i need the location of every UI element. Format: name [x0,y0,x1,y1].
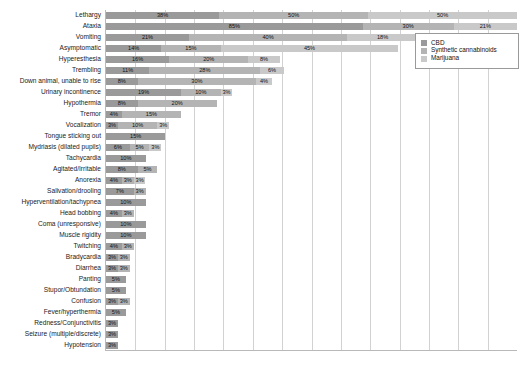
segment-value-label: 10% [132,123,143,129]
category-label: Tachycardia [66,155,106,162]
bar-segment[interactable]: 3% [134,188,146,196]
bar-segment[interactable]: 11% [106,67,149,75]
bar-segment[interactable]: 3% [122,243,134,251]
bar-segment[interactable]: 3% [106,265,118,273]
bar-segment[interactable]: 45% [221,45,399,53]
bar-segment[interactable]: 3% [157,122,169,130]
category-label: Tremor [80,111,106,118]
bar-row: Muscle rigidity10% [106,232,517,240]
bar-row: Confusion3%3% [106,298,517,306]
bar-segment[interactable]: 4% [256,78,272,86]
bar-segment[interactable]: 8% [106,100,138,108]
bar-segment[interactable]: 18% [347,34,418,42]
bar-segment[interactable]: 3% [106,122,118,130]
bar-segment[interactable]: 3% [118,254,130,262]
bar-segment[interactable]: 3% [221,89,233,97]
bar-segment[interactable]: 3% [106,254,118,262]
segment-value-label: 3% [108,299,116,305]
segment-value-label: 45% [304,46,315,52]
bar-segment[interactable]: 4% [106,177,122,185]
segment-value-label: 3% [120,266,128,272]
segment-value-label: 21% [142,35,153,41]
segment-value-label: 20% [203,57,214,63]
bar-segment[interactable]: 5% [106,276,126,284]
bar-segment[interactable]: 3% [122,177,134,185]
bar-row: Stupor/Obtundation5% [106,287,517,295]
bar-segment[interactable]: 3% [134,177,146,185]
bar-segment[interactable]: 21% [454,23,517,31]
category-label: Lethargy [75,12,106,19]
bar-segment[interactable]: 8% [106,166,138,174]
bar-segment[interactable]: 8% [248,56,280,64]
bar-segment[interactable]: 10% [106,199,146,207]
bar-row: Diarrhea3%3% [106,265,517,273]
bar-segment[interactable]: 3% [106,331,118,339]
bar-segment[interactable]: 4% [106,210,122,218]
category-label: Trembling [72,67,106,74]
segment-value-label: 3% [124,178,132,184]
segment-value-label: 11% [122,68,133,74]
segment-value-label: 40% [262,35,273,41]
bar-segment[interactable]: 10% [106,155,146,163]
bar-segment[interactable]: 8% [106,78,138,86]
bar-segment[interactable]: 85% [106,23,363,31]
legend-swatch [421,48,427,54]
segment-value-label: 50% [288,13,299,19]
bar-row: Seizure (multiple/discrete)3% [106,331,517,339]
segment-value-label: 3% [124,244,132,250]
legend-item[interactable]: CBD [421,40,513,46]
bar-segment[interactable]: 20% [169,56,248,64]
bar-segment[interactable]: 38% [106,12,219,20]
bar-segment[interactable]: 50% [219,12,368,20]
bar-segment[interactable]: 5% [130,144,150,152]
bar-segment[interactable]: 10% [106,232,146,240]
bar-segment[interactable]: 6% [260,67,284,75]
bar-row: Urinary incontinence19%10%3% [106,89,517,97]
bar-row: Anorexia4%3%3% [106,177,517,185]
category-label: Mydriasis (dilated pupils) [28,144,106,151]
bar-segment[interactable]: 4% [106,243,122,251]
bar-segment[interactable]: 3% [149,144,161,152]
segment-value-label: 7% [116,189,124,195]
legend-item[interactable]: Synthetic cannabinoids [421,47,513,53]
bar-segment[interactable]: 19% [106,89,181,97]
bar-segment[interactable]: 10% [106,221,146,229]
bar-segment[interactable]: 5% [106,287,126,295]
bar-segment[interactable]: 7% [106,188,134,196]
segment-value-label: 10% [120,222,131,228]
segment-value-label: 6% [268,68,276,74]
bar-segment[interactable]: 16% [106,56,169,64]
bar-segment[interactable]: 28% [149,67,260,75]
bar-segment[interactable]: 15% [106,133,165,141]
bar-segment[interactable]: 5% [106,309,126,317]
segment-value-label: 5% [143,167,151,173]
bar-segment[interactable]: 3% [122,210,134,218]
bar-segment[interactable]: 30% [138,78,257,86]
segment-value-label: 3% [120,255,128,261]
segment-value-label: 8% [118,167,126,173]
segment-value-label: 6% [114,145,122,151]
bar-segment[interactable]: 40% [189,34,347,42]
segment-value-label: 5% [112,288,120,294]
bar-segment[interactable]: 3% [118,298,130,306]
bar-segment[interactable]: 21% [106,34,189,42]
bar-segment[interactable]: 3% [106,342,118,350]
bar-segment[interactable]: 10% [118,122,158,130]
bar-segment[interactable]: 10% [181,89,221,97]
bar-segment[interactable]: 20% [138,100,217,108]
bar-segment[interactable]: 15% [161,45,220,53]
segment-value-label: 28% [199,68,210,74]
category-label: Agitated/Irritable [53,166,106,173]
bar-segment[interactable]: 4% [106,111,122,119]
bar-segment[interactable]: 3% [118,265,130,273]
legend-item[interactable]: Marijuana [421,55,513,61]
bar-segment[interactable]: 3% [106,298,118,306]
bar-segment[interactable]: 6% [106,144,130,152]
bar-segment[interactable]: 15% [122,111,181,119]
bar-segment[interactable]: 5% [138,166,158,174]
bar-segment[interactable]: 14% [106,45,161,53]
bar-segment[interactable]: 30% [363,23,454,31]
bar-segment[interactable]: 50% [368,12,517,20]
bar-segment[interactable]: 3% [106,320,118,328]
segment-value-label: 3% [222,90,230,96]
